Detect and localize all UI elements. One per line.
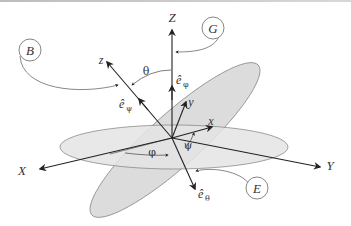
label-psi: ψ <box>184 139 193 152</box>
svg-text:G: G <box>208 21 218 36</box>
callout-G: G <box>202 17 224 39</box>
label-x: x <box>207 114 214 128</box>
theta-arc <box>132 70 171 85</box>
euler-angles-diagram: B G E Z X Y z y x θ φ ψ ê φ ê ψ ê θ <box>0 0 351 226</box>
label-e-psi: ê ψ <box>119 97 132 113</box>
svg-text:ê: ê <box>119 97 125 111</box>
svg-text:θ: θ <box>205 194 210 203</box>
label-y: y <box>187 95 194 109</box>
svg-text:B: B <box>26 43 34 58</box>
label-Y: Y <box>326 158 335 173</box>
label-phi: φ <box>148 146 156 159</box>
label-e-theta: ê θ <box>198 187 210 203</box>
label-theta: θ <box>143 65 150 78</box>
label-X: X <box>17 163 27 178</box>
callout-B: B <box>19 39 41 61</box>
svg-text:ê: ê <box>176 73 182 87</box>
svg-text:ê: ê <box>198 187 204 201</box>
svg-text:ψ: ψ <box>126 104 132 113</box>
svg-text:φ: φ <box>183 80 189 89</box>
svg-text:E: E <box>252 181 261 196</box>
e-psi-vector <box>139 99 148 110</box>
label-z: z <box>98 53 104 67</box>
label-e-phi: ê φ <box>176 73 189 89</box>
callout-E-leader <box>196 169 250 185</box>
label-Z: Z <box>168 10 176 25</box>
callout-E: E <box>246 177 268 199</box>
